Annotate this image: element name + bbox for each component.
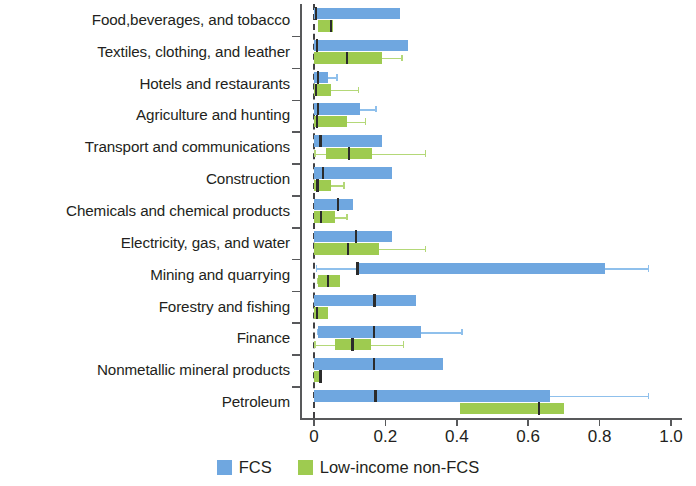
boxplot-row xyxy=(300,163,696,195)
median-line xyxy=(351,338,353,351)
median-line xyxy=(356,262,358,275)
y-axis-tick xyxy=(292,163,300,165)
category-label: Chemicals and chemical products xyxy=(66,203,290,218)
y-axis-tick xyxy=(292,291,300,293)
box-body xyxy=(314,135,382,147)
boxplot-figure: Food,beverages, and tobaccoTextiles, clo… xyxy=(0,0,696,486)
median-line xyxy=(317,71,319,84)
median-line xyxy=(316,39,318,52)
y-axis-tick xyxy=(292,131,300,133)
median-line xyxy=(355,230,357,243)
legend-swatch-icon xyxy=(217,460,232,475)
legend-swatch-icon xyxy=(298,460,313,475)
x-axis-tick-label: 0.6 xyxy=(516,427,540,447)
median-line xyxy=(319,135,321,148)
y-axis-tick xyxy=(292,227,300,229)
box-body xyxy=(314,231,392,243)
whisker-cap xyxy=(314,341,316,348)
whisker-cap xyxy=(401,55,403,62)
legend-item[interactable]: Low-income non-FCS xyxy=(298,458,480,477)
median-line xyxy=(319,370,321,383)
boxplot-row xyxy=(300,195,696,227)
boxplot-row xyxy=(300,36,696,68)
box-body xyxy=(356,263,605,275)
category-label: Electricity, gas, and water xyxy=(121,235,290,250)
boxplot-row xyxy=(300,227,696,259)
median-line xyxy=(320,211,322,224)
category-label: Nonmetallic mineral products xyxy=(97,362,290,377)
x-axis-tick xyxy=(599,418,601,426)
boxplot-row xyxy=(300,259,696,291)
whisker-cap xyxy=(375,106,377,113)
boxplot-row xyxy=(300,68,696,100)
x-axis-tick-label: 0.2 xyxy=(374,427,398,447)
y-axis-tick xyxy=(292,68,300,70)
legend: FCSLow-income non-FCS xyxy=(0,452,696,482)
legend-item[interactable]: FCS xyxy=(217,458,272,477)
category-label: Petroleum xyxy=(222,394,290,409)
median-line xyxy=(373,326,375,339)
box-body xyxy=(314,72,328,84)
x-axis-line xyxy=(300,418,682,420)
whisker-cap xyxy=(648,393,650,400)
median-line xyxy=(348,147,350,160)
whisker-cap xyxy=(336,74,338,81)
y-axis-tick xyxy=(292,354,300,356)
x-axis-tick xyxy=(313,418,315,426)
boxplot-row xyxy=(300,386,696,418)
median-line xyxy=(315,84,317,97)
box-body xyxy=(314,103,360,115)
x-axis: 00.20.40.60.81.0 xyxy=(300,418,696,448)
whisker-cap xyxy=(343,182,345,189)
box-body xyxy=(314,295,416,307)
median-line xyxy=(373,294,375,307)
median-line xyxy=(315,7,317,20)
x-axis-tick xyxy=(670,418,672,426)
category-label: Textiles, clothing, and leather xyxy=(97,44,290,59)
whisker-cap xyxy=(358,87,360,94)
boxplot-row xyxy=(300,291,696,323)
box-body xyxy=(314,390,550,402)
y-axis-tick xyxy=(292,36,300,38)
x-axis-tick-label: 1.0 xyxy=(659,427,683,447)
boxplot-row xyxy=(300,4,696,36)
x-axis-tick xyxy=(385,418,387,426)
box-body xyxy=(314,211,335,223)
category-label: Agriculture and hunting xyxy=(136,107,290,122)
category-label: Transport and communications xyxy=(85,139,290,154)
y-axis-tick xyxy=(292,259,300,261)
median-line xyxy=(346,52,348,65)
x-axis-tick xyxy=(456,418,458,426)
plot-area xyxy=(300,4,696,418)
x-axis-tick-label: 0 xyxy=(309,427,318,447)
y-axis-tick xyxy=(292,195,300,197)
whisker-cap xyxy=(314,150,316,157)
category-axis-labels: Food,beverages, and tobaccoTextiles, clo… xyxy=(0,0,296,418)
whisker-cap xyxy=(648,265,650,272)
y-axis-tick xyxy=(292,386,300,388)
median-line xyxy=(373,358,375,371)
box-body xyxy=(314,199,353,211)
median-line xyxy=(317,103,319,116)
whisker-cap xyxy=(346,214,348,221)
median-line xyxy=(374,390,376,403)
legend-label: Low-income non-FCS xyxy=(320,458,480,477)
median-line xyxy=(538,402,540,415)
box-body xyxy=(314,40,408,52)
median-line xyxy=(316,179,318,192)
category-label: Finance xyxy=(237,330,290,345)
boxplot-row xyxy=(300,100,696,132)
y-axis-tick xyxy=(292,322,300,324)
median-line xyxy=(330,20,332,33)
y-axis-tick xyxy=(292,100,300,102)
whisker-cap xyxy=(316,265,318,272)
whisker-cap xyxy=(403,341,405,348)
median-line xyxy=(316,307,318,320)
box-body xyxy=(314,116,347,128)
x-axis-tick xyxy=(527,418,529,426)
median-line xyxy=(337,198,339,211)
median-line xyxy=(327,275,329,288)
whisker-cap xyxy=(425,150,427,157)
box-body xyxy=(314,167,392,179)
category-label: Hotels and restaurants xyxy=(139,76,290,91)
